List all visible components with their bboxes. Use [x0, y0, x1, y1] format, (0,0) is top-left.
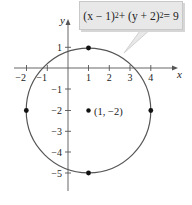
y-tick-label: −5 [51, 168, 62, 179]
x-tick-label: 2 [107, 72, 112, 83]
y-tick-label: 1 [57, 42, 62, 53]
callout-pointer [124, 28, 152, 53]
x-axis-label: x [176, 68, 182, 80]
y-tick-label: −4 [51, 147, 62, 158]
equation-part: (x − 1) [83, 10, 114, 22]
circle-graph: −2 −1 1 2 3 4 1 −1 −2 −3 −4 −5 x y (1, −… [0, 0, 192, 205]
y-tick-label: −1 [51, 84, 62, 95]
equation-callout: (x − 1)2 + (y + 2)2 = 9 [79, 1, 183, 30]
x-tick-label: 1 [86, 72, 91, 83]
point-right [148, 108, 153, 113]
point-center [86, 108, 90, 112]
y-axis-label: y [59, 14, 65, 26]
equation-part: + (y + 2) [119, 10, 160, 22]
center-label: (1, −2) [94, 106, 123, 118]
point-bottom [86, 171, 91, 176]
x-tick-label: −2 [15, 72, 26, 83]
y-axis-arrow-icon [66, 19, 71, 25]
point-top [86, 46, 91, 51]
equation-part: = 9 [164, 10, 179, 22]
y-tick-label: −3 [51, 126, 62, 137]
y-tick-label: −2 [51, 105, 62, 116]
x-tick-label: 3 [128, 72, 133, 83]
x-tick-label: 4 [148, 72, 153, 83]
point-left [24, 108, 29, 113]
